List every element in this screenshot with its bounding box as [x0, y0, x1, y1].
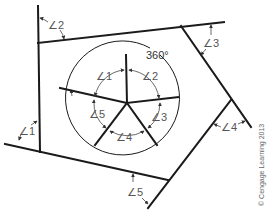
label-central-angle-5: ∠5: [89, 108, 105, 120]
ray-left: [60, 88, 127, 103]
label-central-angle-3: ∠3: [151, 111, 167, 123]
pentagon-exterior-angles-diagram: 360° ∠1 ∠2 ∠3 ∠4 ∠5 ∠2 ∠3 ∠4 ∠5 ∠1 © Cen…: [0, 0, 269, 215]
side-left: [38, 6, 40, 152]
label-central-angle-1: ∠1: [96, 70, 112, 82]
side-top: [38, 22, 224, 43]
label-exterior-angle-2: ∠2: [48, 19, 64, 31]
label-exterior-angle-4: ∠4: [221, 121, 237, 133]
label-exterior-angle-3: ∠3: [203, 37, 219, 49]
label-360: 360°: [146, 49, 169, 61]
label-exterior-angle-5: ∠5: [127, 186, 143, 198]
copyright-notice: © Cengage Learning 2013: [258, 124, 266, 206]
ray-right: [127, 97, 178, 103]
label-exterior-angle-1: ∠1: [19, 125, 35, 137]
side-bottom: [5, 144, 168, 180]
ray-up: [126, 55, 127, 103]
label-central-angle-4: ∠4: [116, 131, 132, 143]
label-central-angle-2: ∠2: [142, 70, 158, 82]
